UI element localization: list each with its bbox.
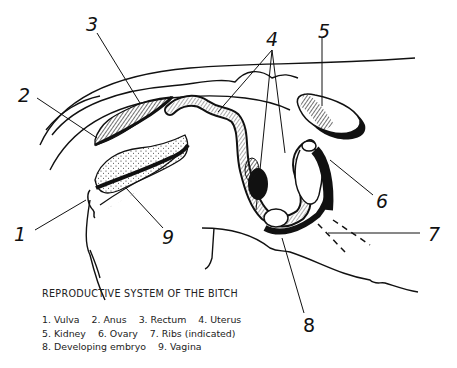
legend-line-1: 1. Vulva 2. Anus 3. Rectum 4. Uterus [42, 313, 250, 327]
legend-item: 1. Vulva [42, 314, 80, 325]
label-7-ribs: 7 [428, 225, 440, 244]
legend-item: 9. Vagina [158, 341, 202, 352]
legend-line-3: 8. Developing embryo 9. Vagina [42, 340, 250, 354]
uterus-shape [170, 101, 328, 232]
label-6-ovary: 6 [376, 192, 388, 211]
legend-item: 6. Ovary [98, 328, 138, 339]
figure-title: REPRODUCTIVE SYSTEM OF THE BITCH [42, 288, 238, 299]
label-8-embryo: 8 [303, 316, 315, 335]
label-4-uterus: 4 [266, 30, 278, 49]
label-1-vulva: 1 [14, 225, 26, 244]
legend-item: 2. Anus [92, 314, 127, 325]
kidney-shape [297, 94, 365, 139]
legend-item: 3. Rectum [139, 314, 187, 325]
vulva-shape [88, 190, 95, 218]
figure-legend: 1. Vulva 2. Anus 3. Rectum 4. Uterus 5. … [42, 313, 250, 354]
label-5-kidney: 5 [318, 22, 330, 41]
legend-item: 4. Uterus [198, 314, 241, 325]
legend-item: 7. Ribs (indicated) [150, 328, 236, 339]
label-9-vagina: 9 [162, 228, 174, 247]
legend-item: 8. Developing embryo [42, 341, 146, 352]
legend-line-2: 5. Kidney 6. Ovary 7. Ribs (indicated) [42, 327, 250, 341]
leader-lines [35, 33, 420, 313]
ovary-shape [302, 141, 316, 151]
ribs-dashed [318, 220, 370, 252]
legend-item: 5. Kidney [42, 328, 86, 339]
label-2-anus: 2 [18, 86, 30, 105]
label-3-rectum: 3 [86, 15, 98, 34]
